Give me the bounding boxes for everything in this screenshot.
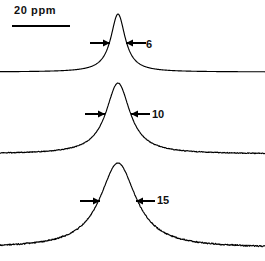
arrow-left-10 [85, 110, 105, 117]
linewidth-label-10: 10 [152, 108, 164, 120]
spectrum-traces [0, 14, 265, 247]
linewidth-label-15: 15 [157, 194, 169, 206]
spectrum-trace-10 [0, 83, 265, 154]
spectrum-trace-15 [0, 163, 265, 247]
spectra-figure: 20 ppm 6 10 15 [0, 0, 265, 261]
arrow-right-6 [126, 39, 146, 46]
arrow-left-6 [90, 39, 110, 46]
arrow-right-10 [131, 110, 150, 117]
spectra-plot [0, 0, 265, 261]
linewidth-label-6: 6 [146, 38, 152, 50]
linewidth-arrows [80, 39, 155, 204]
scale-bar-label: 20 ppm [14, 4, 56, 16]
